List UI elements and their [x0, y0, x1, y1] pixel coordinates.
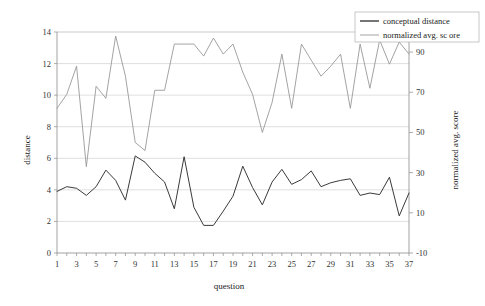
x-axis-tick-label: 9 — [133, 259, 137, 269]
x-axis-tick-label: 27 — [307, 259, 316, 269]
x-axis-tick-label: 25 — [287, 259, 296, 269]
y-axis-left-tick-label: 12 — [43, 59, 52, 69]
y-axis-left-title: distance — [22, 135, 32, 165]
y-axis-right-tick-label: 90 — [416, 47, 425, 57]
y-axis-left-tick-label: 2 — [47, 216, 51, 226]
x-axis-tick-label: 1 — [55, 259, 59, 269]
y-axis-right-tick-label: 50 — [416, 127, 425, 137]
x-axis-title: question — [214, 281, 245, 291]
chart-container: 02468101214 -101030507090 13579111315171… — [0, 0, 485, 306]
x-axis-tick-label: 13 — [170, 259, 179, 269]
y-axis-left-tick-label: 0 — [47, 248, 51, 258]
x-axis-tick-label: 31 — [346, 259, 355, 269]
y-axis-right-tick-label: 30 — [416, 168, 425, 178]
y-axis-left-tick-label: 8 — [47, 122, 51, 132]
x-axis-tick-label: 17 — [209, 259, 218, 269]
x-axis-tick-label: 35 — [385, 259, 394, 269]
y-axis-right-tick-label: -10 — [416, 248, 427, 258]
x-axis-tick-label: 3 — [74, 259, 78, 269]
y-axis-left-tick-label: 10 — [43, 90, 52, 100]
x-axis-tick-label: 11 — [151, 259, 159, 269]
y-axis-right-tick-label: 10 — [416, 208, 425, 218]
x-axis-tick-label: 29 — [327, 259, 336, 269]
x-axis-tick-label: 23 — [268, 259, 277, 269]
y-axis-left-tick-label: 6 — [47, 153, 51, 163]
x-axis-tick-label: 7 — [114, 259, 118, 269]
y-axis-right-title: normalized avg. score — [450, 110, 460, 189]
x-axis-tick-label: 5 — [94, 259, 98, 269]
x-axis-tick-label: 37 — [405, 259, 414, 269]
chart-legend[interactable]: conceptual distancenormalized avg. sc or… — [355, 12, 479, 42]
y-axis-left-tick-label: 14 — [43, 27, 52, 37]
legend-label-normalized-avg-score[interactable]: normalized avg. sc ore — [383, 30, 460, 40]
legend-label-conceptual-distance[interactable]: conceptual distance — [383, 16, 450, 26]
x-axis-tick-label: 21 — [248, 259, 257, 269]
line-chart: 02468101214 -101030507090 13579111315171… — [0, 0, 485, 306]
x-axis-tick-label: 19 — [229, 259, 238, 269]
x-axis-tick-label: 33 — [366, 259, 375, 269]
y-axis-right-tick-label: 70 — [416, 87, 425, 97]
x-axis-tick-label: 15 — [190, 259, 199, 269]
